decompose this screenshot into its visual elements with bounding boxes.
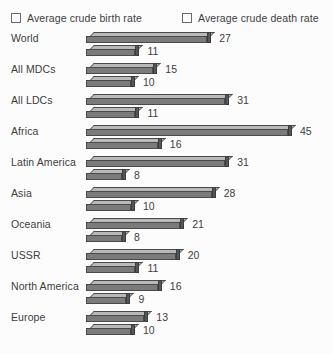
bar-birth-rate: [86, 32, 207, 43]
bar-birth-rate: [86, 125, 288, 136]
bar-birth-rate: [86, 94, 225, 105]
bar-front-face: [86, 142, 158, 149]
bar-end-cap: [122, 169, 126, 180]
bar-front-face: [86, 98, 225, 105]
bar-front-face: [86, 191, 212, 198]
bar-end-cap: [126, 293, 130, 304]
crude-birth-death-rate-chart: Average crude birth rate Average crude d…: [0, 0, 333, 354]
chart-row: Oceania218: [0, 218, 333, 249]
chart-row: Europe1310: [0, 311, 333, 342]
chart-legend: Average crude birth rate Average crude d…: [0, 12, 333, 30]
chart-row: All MDCs1510: [0, 63, 333, 94]
category-label: North America: [11, 280, 79, 292]
category-label: Europe: [11, 311, 45, 323]
bar-front-face: [86, 253, 176, 260]
bar-end-cap: [212, 187, 216, 198]
bar-value-label: 16: [170, 280, 182, 292]
bar-front-face: [86, 80, 131, 87]
bar-front-face: [86, 297, 126, 304]
chart-row: All LDCs3111: [0, 94, 333, 125]
bar-death-rate: [86, 324, 131, 335]
bar-front-face: [86, 111, 135, 118]
bar-value-label: 10: [143, 76, 155, 88]
legend-swatch-icon-death: [182, 13, 192, 23]
chart-row: USSR2011: [0, 249, 333, 280]
bar-value-label: 20: [188, 249, 200, 261]
bar-end-cap: [122, 231, 126, 242]
bar-front-face: [86, 160, 225, 167]
bar-front-face: [86, 129, 288, 136]
bar-end-cap: [158, 138, 162, 149]
bar-end-cap: [131, 324, 135, 335]
bar-birth-rate: [86, 63, 153, 74]
bar-end-cap: [225, 156, 229, 167]
bar-value-label: 10: [143, 200, 155, 212]
bar-birth-rate: [86, 311, 144, 322]
bar-end-cap: [158, 280, 162, 291]
bar-value-label: 45: [300, 125, 312, 137]
bar-birth-rate: [86, 156, 225, 167]
category-label: World: [11, 32, 39, 44]
bar-end-cap: [180, 218, 184, 229]
category-label: Latin America: [11, 156, 76, 168]
bar-death-rate: [86, 107, 135, 118]
bar-death-rate: [86, 293, 126, 304]
bar-value-label: 28: [224, 187, 236, 199]
bar-front-face: [86, 315, 144, 322]
legend-swatch-icon-birth: [11, 13, 21, 23]
chart-row: Africa4516: [0, 125, 333, 156]
category-label: Oceania: [11, 218, 51, 230]
bar-front-face: [86, 49, 135, 56]
bar-end-cap: [131, 200, 135, 211]
bar-value-label: 21: [192, 218, 204, 230]
bar-birth-rate: [86, 187, 212, 198]
bar-value-label: 8: [134, 169, 140, 181]
bar-front-face: [86, 266, 135, 273]
bar-front-face: [86, 67, 153, 74]
bar-birth-rate: [86, 280, 158, 291]
bar-value-label: 31: [237, 156, 249, 168]
bar-death-rate: [86, 169, 122, 180]
bar-value-label: 11: [147, 45, 158, 57]
bar-value-label: 11: [147, 262, 158, 274]
legend-item-death-rate: Average crude death rate: [182, 12, 319, 24]
bar-value-label: 8: [134, 231, 140, 243]
bar-birth-rate: [86, 218, 180, 229]
bar-end-cap: [135, 107, 139, 118]
bar-front-face: [86, 173, 122, 180]
bar-value-label: 31: [237, 94, 249, 106]
bar-end-cap: [135, 262, 139, 273]
bar-front-face: [86, 222, 180, 229]
bar-front-face: [86, 36, 207, 43]
bar-end-cap: [225, 94, 229, 105]
bar-value-label: 27: [219, 32, 231, 44]
bar-death-rate: [86, 200, 131, 211]
bar-value-label: 15: [165, 63, 177, 75]
bar-value-label: 11: [147, 107, 158, 119]
category-label: All LDCs: [11, 94, 53, 106]
bar-death-rate: [86, 138, 158, 149]
bar-front-face: [86, 235, 122, 242]
bar-end-cap: [288, 125, 292, 136]
bar-death-rate: [86, 76, 131, 87]
bar-value-label: 10: [143, 324, 155, 336]
legend-label-birth-rate: Average crude birth rate: [27, 12, 142, 24]
chart-row: North America169: [0, 280, 333, 311]
bar-end-cap: [135, 45, 139, 56]
category-label: USSR: [11, 249, 41, 261]
category-label: All MDCs: [11, 63, 56, 75]
chart-row: World2711: [0, 32, 333, 63]
bar-death-rate: [86, 231, 122, 242]
bar-end-cap: [176, 249, 180, 260]
bar-front-face: [86, 204, 131, 211]
bar-value-label: 9: [138, 293, 144, 305]
plot-area: World2711All MDCs1510All LDCs3111Africa4…: [0, 32, 333, 354]
bar-value-label: 16: [170, 138, 182, 150]
bar-value-label: 13: [156, 311, 168, 323]
bar-end-cap: [131, 76, 135, 87]
bar-end-cap: [153, 63, 157, 74]
bar-death-rate: [86, 262, 135, 273]
bar-front-face: [86, 284, 158, 291]
bar-front-face: [86, 328, 131, 335]
chart-row: Asia2810: [0, 187, 333, 218]
